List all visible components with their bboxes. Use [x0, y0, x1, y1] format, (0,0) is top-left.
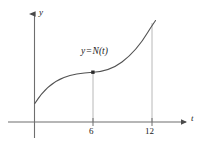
curve-equation-label: y=N(t)	[81, 47, 108, 57]
x-tick-label-12: 12	[145, 127, 154, 136]
y-axis-label: y	[39, 8, 43, 17]
graph-canvas	[0, 0, 202, 148]
inflection-point-marker	[91, 71, 94, 74]
curve-label-operator: =	[85, 46, 92, 56]
x-axis-label: t	[191, 114, 194, 123]
curve-label-rhs: N(t)	[93, 46, 108, 56]
x-tick-label-6: 6	[89, 127, 94, 136]
figure-container: y t y=N(t) 6 12	[0, 0, 202, 148]
curve-n-of-t	[35, 21, 156, 104]
